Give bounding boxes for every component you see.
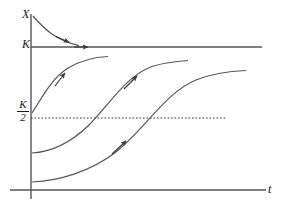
carrying-capacity-label: K xyxy=(22,38,30,50)
half-capacity-label: K 2 xyxy=(16,99,30,123)
logistic-curve-3 xyxy=(32,71,246,183)
logistic-growth-figure: X K K 2 t xyxy=(0,0,285,212)
logistic-curve-2 xyxy=(32,61,188,154)
x-axis-label: t xyxy=(268,183,271,195)
half-capacity-numerator: K xyxy=(16,99,30,111)
logistic-curve-2-arrow-icon xyxy=(124,76,137,89)
decaying-solution-arrow-icon xyxy=(56,37,69,43)
decaying-solution-curve xyxy=(33,16,79,46)
logistic-curve-3-arrow-icon xyxy=(112,141,126,154)
half-capacity-denominator: 2 xyxy=(16,112,30,124)
logistic-curve-1 xyxy=(32,57,108,114)
plot-canvas xyxy=(0,0,285,212)
y-axis-label: X xyxy=(22,8,29,20)
